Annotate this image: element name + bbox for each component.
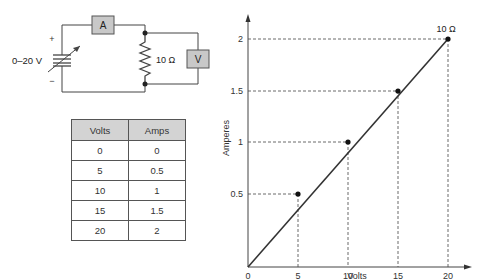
cell-amps: 0 — [129, 141, 186, 161]
circuit-diagram — [48, 25, 198, 92]
cell-volts: 10 — [72, 181, 129, 201]
resistor-label: 10 Ω — [156, 55, 176, 65]
x-axis-label: Volts — [347, 271, 367, 280]
table-row: 15 1.5 — [72, 201, 186, 221]
x-tick-label: 0 — [245, 271, 250, 280]
data-point — [395, 88, 400, 93]
table-row: 0 0 — [72, 141, 186, 161]
wire-voltmeter — [145, 33, 198, 50]
chart: 0 5 10 15 20 0.5 1 1.5 2 Volts Amperes 1… — [221, 14, 472, 280]
line-label: 10 Ω — [436, 24, 456, 34]
y-tick-label: 1.5 — [230, 86, 243, 96]
data-point — [295, 191, 300, 196]
data-point — [345, 139, 350, 144]
x-axis-arrow-icon — [464, 265, 472, 270]
table-row: 5 0.5 — [72, 161, 186, 181]
y-tick-label: 1 — [238, 137, 243, 147]
y-tick-label: 2 — [238, 34, 243, 44]
cell-amps: 0.5 — [129, 161, 186, 181]
header-volts: Volts — [72, 120, 129, 141]
x-tick-label: 15 — [393, 271, 403, 280]
wire-voltmeter-bottom — [145, 68, 198, 84]
table-row: 10 1 — [72, 181, 186, 201]
y-tick-label: 0.5 — [230, 189, 243, 199]
y-axis-arrow-icon — [246, 14, 251, 22]
ammeter-label: A — [100, 20, 107, 31]
header-amps: Amps — [129, 120, 186, 141]
table-row: 20 2 — [72, 221, 186, 241]
junction-dot-bottom — [143, 82, 148, 87]
cell-amps: 1.5 — [129, 201, 186, 221]
volts-amps-table: Volts Amps 0 0 5 0.5 10 1 15 1.5 20 2 — [71, 119, 186, 241]
cell-volts: 0 — [72, 141, 129, 161]
wire-left-bottom — [62, 66, 145, 92]
resistor-icon — [140, 33, 150, 84]
cell-volts: 5 — [72, 161, 129, 181]
voltmeter-label: V — [195, 54, 202, 65]
y-axis-label: Amperes — [221, 119, 231, 156]
minus-sign: − — [49, 76, 54, 86]
cell-amps: 2 — [129, 221, 186, 241]
table-header-row: Volts Amps — [72, 120, 186, 141]
source-label: 0–20 V — [12, 55, 43, 66]
cell-volts: 20 — [72, 221, 129, 241]
wire-top-right — [114, 25, 145, 33]
cell-volts: 15 — [72, 201, 129, 221]
x-tick-label: 5 — [295, 271, 300, 280]
plus-sign: + — [49, 34, 54, 44]
junction-dot-top — [143, 31, 148, 36]
cell-amps: 1 — [129, 181, 186, 201]
data-point — [445, 36, 450, 41]
x-tick-label: 20 — [443, 271, 453, 280]
